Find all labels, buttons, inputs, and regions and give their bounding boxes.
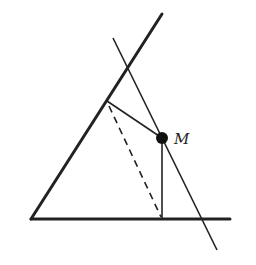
geometry-figure: M (0, 0, 256, 265)
diagram-canvas: M (0, 0, 256, 265)
point-m-label: M (173, 130, 190, 148)
dashed-segment-feet (109, 106, 161, 217)
point-m (156, 132, 168, 144)
angle-side-upper (31, 14, 162, 219)
